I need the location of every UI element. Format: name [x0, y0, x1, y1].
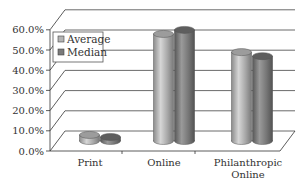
legend-label: Median — [67, 46, 107, 58]
legend-swatch — [58, 36, 64, 42]
bar-median-2 — [253, 53, 273, 145]
x-tick-label: Philanthropic — [214, 157, 283, 168]
y-tick-label: 50.0% — [12, 45, 44, 56]
bar-average-2 — [232, 49, 252, 145]
legend: AverageMedian — [53, 32, 111, 62]
bar-average-1 — [154, 30, 174, 144]
x-tick-label: Online — [147, 157, 180, 168]
y-tick-label: 60.0% — [12, 24, 44, 35]
y-tick-label: 0.0% — [19, 146, 44, 157]
x-tick-label: Print — [77, 157, 102, 168]
y-tick-label: 40.0% — [12, 65, 44, 76]
bar-median-1 — [175, 26, 195, 144]
legend-label: Average — [66, 33, 111, 45]
y-tick-label: 20.0% — [12, 105, 44, 116]
x-tick-label: Online — [231, 169, 264, 180]
chart: 0.0%10.0%20.0%30.0%40.0%50.0%60.0% Print… — [0, 0, 297, 189]
y-tick-label: 30.0% — [12, 85, 44, 96]
bar-average-0 — [80, 131, 100, 144]
y-tick-label: 10.0% — [12, 125, 44, 136]
legend-swatch — [58, 49, 64, 55]
bar-median-0 — [101, 133, 121, 144]
x-axis-labels: PrintOnlinePhilanthropicOnline — [77, 157, 282, 180]
